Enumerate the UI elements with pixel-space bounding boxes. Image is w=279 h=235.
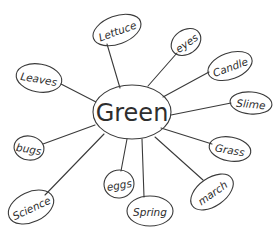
node-label: eggs	[106, 177, 133, 193]
mind-map: Green LettuceeyesCandleSlimeGrassmarchSp…	[0, 0, 279, 235]
node-lettuce: Lettuce	[89, 8, 146, 51]
connector-spring	[142, 139, 144, 197]
node-candle: Candle	[204, 46, 256, 86]
node-label: bugs	[15, 141, 43, 157]
connector-eggs	[121, 139, 127, 171]
node-march: march	[184, 167, 239, 217]
node-label: Leaves	[20, 70, 59, 88]
node-label: Lettuce	[97, 19, 138, 44]
connector-science	[45, 134, 104, 195]
node-label: Slime	[236, 97, 266, 111]
node-leaves: Leaves	[14, 60, 64, 96]
node-bugs: bugs	[12, 134, 46, 163]
node-slime: Slime	[229, 90, 273, 116]
connector-leaves	[61, 84, 96, 102]
node-grass: Grass	[207, 134, 253, 165]
node-spring: Spring	[127, 196, 173, 226]
node-eyes: eyes	[166, 23, 206, 61]
connector-grass	[161, 128, 212, 144]
node-science: Science	[3, 183, 59, 230]
connector-bugs	[43, 125, 95, 144]
node-label: Spring	[133, 206, 167, 218]
node-eggs: eggs	[102, 168, 136, 201]
node-label: Grass	[214, 141, 246, 158]
connector-slime	[171, 103, 231, 115]
connector-march	[155, 137, 203, 180]
connector-candle	[163, 72, 209, 97]
center-node-green: Green	[93, 85, 171, 139]
connector-eyes	[148, 53, 177, 86]
connector-lettuce	[107, 44, 120, 88]
center-label: Green	[96, 99, 169, 127]
